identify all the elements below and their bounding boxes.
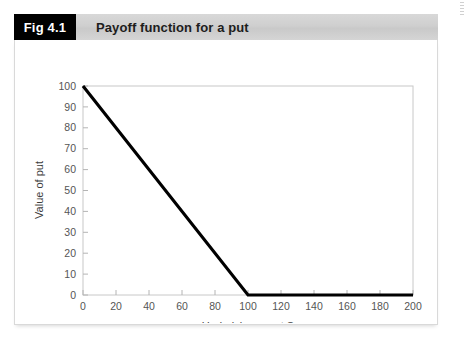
y-tick-label: 30 xyxy=(64,226,76,238)
y-tick-label: 50 xyxy=(64,184,76,196)
chart-plot-area: 0102030405060708090100 02040608010012014… xyxy=(15,40,437,324)
figure-number-badge: Fig 4.1 xyxy=(14,14,76,40)
page-scroll-marker xyxy=(460,2,464,16)
y-axis-title: Value of put xyxy=(33,161,45,219)
figure-title: Payoff function for a put xyxy=(76,14,249,40)
y-tick-label: 20 xyxy=(64,247,76,259)
x-tick-label: 0 xyxy=(80,300,86,312)
y-tick-label: 60 xyxy=(64,163,76,175)
x-tick-label: 40 xyxy=(143,300,155,312)
x-tick-label: 120 xyxy=(272,300,290,312)
x-tick-label: 160 xyxy=(338,300,356,312)
plot-frame xyxy=(83,86,413,295)
x-tick-label: 200 xyxy=(404,300,422,312)
figure-body: 0102030405060708090100 02040608010012014… xyxy=(14,40,438,325)
x-tick-label: 60 xyxy=(176,300,188,312)
y-tick-label: 80 xyxy=(64,121,76,133)
x-tick-label: 20 xyxy=(110,300,122,312)
y-tick-label: 100 xyxy=(58,80,76,92)
y-tick-label: 90 xyxy=(64,101,76,113)
figure-card: Fig 4.1 Payoff function for a put 010203… xyxy=(14,14,438,325)
y-tick-label: 10 xyxy=(64,268,76,280)
y-tick-label: 70 xyxy=(64,142,76,154)
y-tick-label: 40 xyxy=(64,205,76,217)
x-tick-label: 80 xyxy=(209,300,221,312)
x-tick-label: 100 xyxy=(239,300,257,312)
y-tick-label: 0 xyxy=(70,289,76,301)
payoff-chart: 0102030405060708090100 02040608010012014… xyxy=(15,40,437,323)
x-tick-label: 140 xyxy=(305,300,323,312)
x-tick-label: 180 xyxy=(371,300,389,312)
figure-header: Fig 4.1 Payoff function for a put xyxy=(14,14,438,40)
x-axis-title: Underlying asset S xyxy=(202,320,294,323)
